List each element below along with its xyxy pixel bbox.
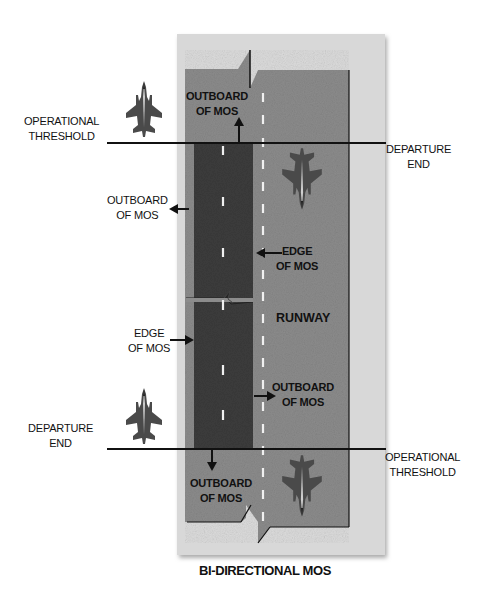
label-outboard-top: OUTBOARD OF MOS xyxy=(186,89,248,119)
mos-strip-upper xyxy=(194,143,253,298)
label-edge-of-mos-right: EDGE OF MOS xyxy=(276,244,318,274)
label-departure-end-bottom: DEPARTURE END xyxy=(28,421,93,451)
label-operational-threshold-bottom: OPERATIONAL THRESHOLD xyxy=(385,450,460,480)
label-operational-threshold-top: OPERATIONAL THRESHOLD xyxy=(24,114,99,144)
runway-label: RUNWAY xyxy=(276,311,330,325)
label-outboard-bottom: OUTBOARD OF MOS xyxy=(190,476,252,506)
diagram-title: BI-DIRECTIONAL MOS xyxy=(0,563,489,578)
label-outboard-right: OUTBOARD OF MOS xyxy=(272,380,334,410)
label-outboard-left: OUTBOARD OF MOS xyxy=(107,193,168,223)
label-edge-of-mos-left: EDGE OF MOS xyxy=(128,326,170,356)
mos-strip-lower xyxy=(194,302,253,449)
fighter-jet-icon-bottom-left xyxy=(126,388,162,444)
fighter-jet-icon-top-left xyxy=(126,81,162,137)
label-departure-end-top: DEPARTURE END xyxy=(386,142,451,172)
